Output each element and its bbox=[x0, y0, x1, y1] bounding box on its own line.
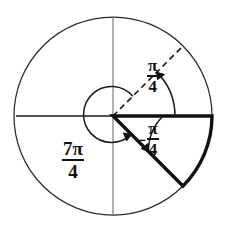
fraction-numerator: π bbox=[147, 120, 158, 137]
fraction-denominator: 4 bbox=[147, 140, 158, 158]
fraction-numerator: 7π bbox=[62, 139, 84, 158]
fraction-negative-pi-over-4: π 4 bbox=[147, 120, 158, 158]
label-pi-over-4: π 4 bbox=[146, 57, 158, 95]
fraction-numerator: π bbox=[147, 57, 158, 74]
label-seven-pi-over-4: 7π 4 bbox=[62, 139, 84, 181]
label-negative-pi-over-4: − π 4 bbox=[136, 120, 159, 158]
fraction-denominator: 4 bbox=[147, 77, 158, 95]
fraction-denominator: 4 bbox=[62, 161, 84, 181]
angle-diagram-canvas bbox=[0, 0, 225, 233]
label-negative-pi-over-4-sign: − bbox=[136, 130, 147, 151]
fraction-pi-over-4: π 4 bbox=[147, 57, 158, 95]
fraction-seven-pi-over-4: 7π 4 bbox=[62, 139, 84, 181]
